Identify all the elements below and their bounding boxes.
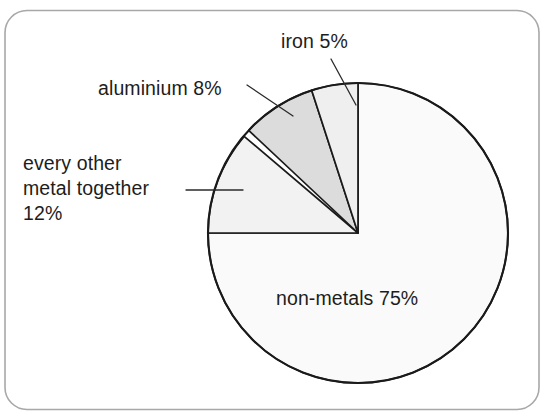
label-every-other-metal-line3: 12% [23, 202, 62, 224]
pie-chart-figure: iron 5% aluminium 8% every other metal t… [0, 0, 551, 420]
label-iron: iron 5% [281, 30, 348, 52]
label-every-other-metal-line2: metal together [23, 177, 149, 199]
pie-chart-canvas: iron 5% aluminium 8% every other metal t… [0, 0, 551, 420]
label-aluminium: aluminium 8% [98, 77, 222, 99]
label-every-other-metal-line1: every other [23, 152, 122, 174]
label-non-metals: non-metals 75% [276, 287, 418, 309]
